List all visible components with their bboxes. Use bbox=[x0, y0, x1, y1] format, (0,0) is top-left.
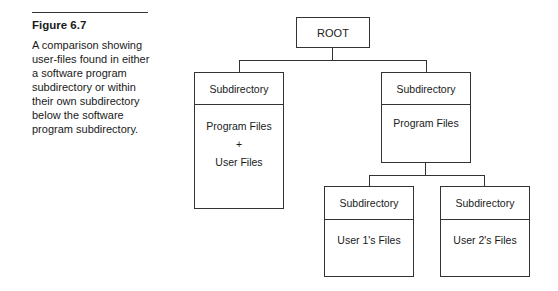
user2-node-header: Subdirectory bbox=[441, 187, 529, 220]
user2-subdirectory-node: Subdirectory User 2's Files bbox=[440, 186, 530, 277]
left-line-1: Program Files bbox=[206, 117, 271, 135]
user1-subdirectory-node: Subdirectory User 1's Files bbox=[324, 186, 414, 277]
right-subdirectory-node: Subdirectory Program Files bbox=[381, 72, 471, 163]
root-label: ROOT bbox=[317, 27, 349, 39]
user1-node-header: Subdirectory bbox=[325, 187, 413, 220]
caption-rule bbox=[32, 12, 148, 13]
left-subdirectory-node: Subdirectory Program Files + User Files bbox=[194, 72, 284, 209]
user2-line-1: User 2's Files bbox=[453, 234, 516, 246]
user1-node-body: User 1's Files bbox=[325, 220, 413, 276]
right-line-1: Program Files bbox=[393, 117, 458, 129]
connector-child2-down bbox=[484, 175, 485, 186]
left-node-body: Program Files + User Files bbox=[195, 105, 283, 208]
right-node-header: Subdirectory bbox=[382, 73, 470, 105]
figure-label: Figure 6.7 bbox=[32, 19, 86, 31]
connector-root-horizontal bbox=[239, 60, 426, 61]
connector-root-down bbox=[332, 47, 333, 60]
left-node-header: Subdirectory bbox=[195, 73, 283, 105]
right-node-body: Program Files bbox=[382, 105, 470, 162]
connector-children-horizontal bbox=[369, 175, 485, 176]
user1-line-1: User 1's Files bbox=[337, 234, 400, 246]
left-line-2: + bbox=[236, 135, 242, 153]
connector-left-down bbox=[239, 60, 240, 72]
figure-caption: A comparison showing user-files found in… bbox=[32, 38, 157, 136]
left-line-3: User Files bbox=[215, 153, 262, 171]
root-node: ROOT bbox=[296, 17, 370, 48]
user2-node-body: User 2's Files bbox=[441, 220, 529, 276]
connector-right-child-down bbox=[425, 162, 426, 175]
connector-right-down bbox=[426, 60, 427, 72]
connector-child1-down bbox=[369, 175, 370, 186]
